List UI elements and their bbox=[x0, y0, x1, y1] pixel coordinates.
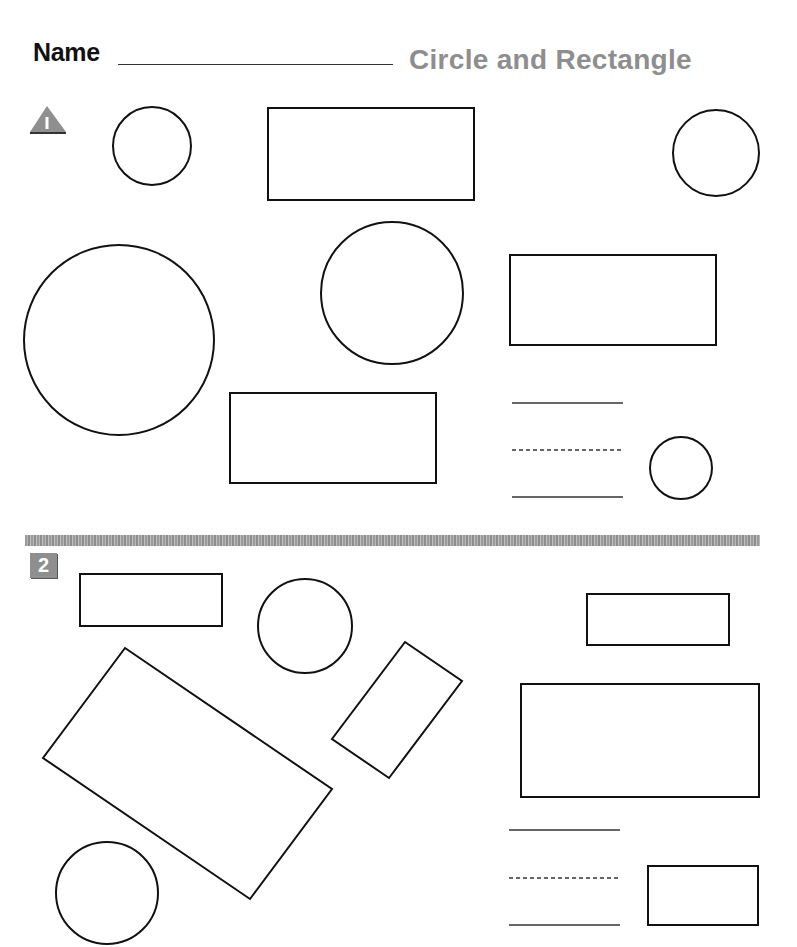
rectangle-shape[interactable] bbox=[587, 594, 729, 645]
circle-shape[interactable] bbox=[24, 245, 214, 435]
section-1-badge-triangle-icon bbox=[30, 106, 66, 133]
section-1-shapes bbox=[24, 107, 759, 499]
section-2-writing-lines[interactable] bbox=[509, 830, 620, 925]
circle-shape[interactable] bbox=[650, 437, 712, 499]
circle-shape[interactable] bbox=[258, 579, 352, 673]
circle-shape[interactable] bbox=[321, 222, 463, 364]
rotated-rectangle-shape[interactable] bbox=[332, 642, 462, 778]
section-1-writing-lines[interactable] bbox=[512, 403, 623, 497]
rectangle-shape[interactable] bbox=[80, 574, 222, 626]
rotated-rectangle-shape[interactable] bbox=[43, 648, 332, 899]
rectangle-shape[interactable] bbox=[648, 866, 758, 925]
rectangle-shape[interactable] bbox=[230, 393, 436, 483]
rectangle-shape[interactable] bbox=[510, 255, 716, 345]
rectangle-shape[interactable] bbox=[521, 684, 759, 797]
rectangle-shape[interactable] bbox=[268, 108, 474, 200]
circle-shape[interactable] bbox=[673, 110, 759, 196]
circle-shape[interactable] bbox=[113, 107, 191, 185]
circle-shape[interactable] bbox=[56, 842, 158, 944]
section-divider bbox=[25, 535, 760, 546]
shapes-canvas bbox=[0, 0, 797, 947]
section-2-shapes bbox=[43, 574, 759, 944]
section-2-badge: 2 bbox=[30, 553, 57, 578]
